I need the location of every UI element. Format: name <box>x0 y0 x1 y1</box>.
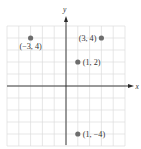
y-axis-arrow-icon <box>64 16 68 22</box>
point-marker-icon <box>75 131 80 136</box>
coordinate-plane: x y (−3, 4)(3, 4)(1, 2)(1, −4) <box>0 0 141 149</box>
point-marker-icon <box>99 35 104 40</box>
point-marker-icon <box>28 35 33 40</box>
plotted-point: (3, 4) <box>79 34 104 43</box>
plotted-point: (1, 2) <box>75 58 101 67</box>
point-label: (3, 4) <box>79 34 97 43</box>
x-axis-label: x <box>135 82 140 91</box>
plotted-point: (1, −4) <box>75 130 105 139</box>
point-label: (−3, 4) <box>19 42 42 51</box>
point-label: (1, −4) <box>83 130 106 139</box>
point-marker-icon <box>75 59 80 64</box>
x-axis-arrow-icon <box>128 84 134 88</box>
point-label: (1, 2) <box>83 58 101 67</box>
y-axis-label: y <box>62 5 67 14</box>
